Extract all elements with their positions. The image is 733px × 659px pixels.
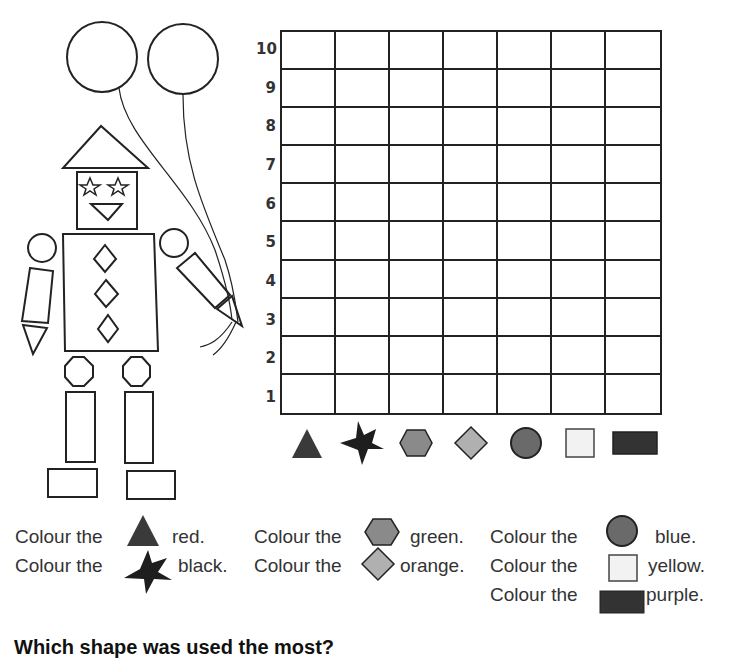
grid-cell[interactable] [390, 261, 444, 299]
arm-left-rectangle [22, 268, 53, 323]
grid-cell[interactable] [606, 70, 660, 108]
grid-cell[interactable] [552, 146, 606, 184]
grid-cell[interactable] [390, 337, 444, 375]
head-square [77, 172, 137, 229]
grid-cell[interactable] [444, 337, 498, 375]
y-tick-4: 4 [256, 272, 276, 290]
grid-cell[interactable] [552, 32, 606, 70]
instruction-prefix: Colour the [490, 584, 578, 606]
rectangle-icon [599, 590, 645, 614]
grid-cell[interactable] [390, 375, 444, 413]
body-diamond [94, 245, 116, 272]
grid-cell[interactable] [444, 261, 498, 299]
grid-cell[interactable] [336, 32, 390, 70]
body-diamond [95, 280, 118, 307]
grid-cell[interactable] [336, 146, 390, 184]
balloon-left [67, 22, 137, 92]
grid-cell[interactable] [498, 108, 552, 146]
grid-cell[interactable] [336, 337, 390, 375]
grid-cell[interactable] [444, 184, 498, 222]
instruction-color-word: green. [410, 526, 464, 548]
grid-cell[interactable] [606, 108, 660, 146]
grid-cell[interactable] [552, 299, 606, 337]
grid-cell[interactable] [498, 337, 552, 375]
grid-cell[interactable] [282, 261, 336, 299]
grid-cell[interactable] [390, 184, 444, 222]
grid-cell[interactable] [282, 70, 336, 108]
grid-cell[interactable] [282, 32, 336, 70]
grid-cell[interactable] [336, 184, 390, 222]
grid-cell[interactable] [390, 70, 444, 108]
y-tick-8: 8 [256, 117, 276, 135]
grid-cell[interactable] [390, 32, 444, 70]
y-tick-6: 6 [256, 195, 276, 213]
grid-cell[interactable] [336, 70, 390, 108]
grid-cell[interactable] [444, 146, 498, 184]
grid-cell[interactable] [498, 375, 552, 413]
grid-cell[interactable] [552, 184, 606, 222]
instruction-color-word: red. [172, 526, 205, 548]
grid-cell[interactable] [552, 261, 606, 299]
grid-cell[interactable] [282, 108, 336, 146]
hexagon-icon [398, 428, 434, 458]
grid-cell[interactable] [552, 222, 606, 260]
grid-cell[interactable] [444, 70, 498, 108]
grid-cell[interactable] [390, 299, 444, 337]
balloon-string [213, 322, 236, 355]
grid-cell[interactable] [606, 222, 660, 260]
grid-cell[interactable] [552, 70, 606, 108]
grid-cell[interactable] [444, 375, 498, 413]
question-text: Which shape was used the most? [14, 636, 334, 659]
grid-cell[interactable] [282, 337, 336, 375]
y-tick-3: 3 [256, 311, 276, 329]
y-tick-7: 7 [256, 156, 276, 174]
category-triangle [280, 418, 335, 468]
grid-cell[interactable] [498, 32, 552, 70]
leg-octagon-left [65, 357, 93, 386]
grid-cell[interactable] [498, 146, 552, 184]
body-diamond [98, 315, 118, 342]
grid-cell[interactable] [282, 299, 336, 337]
grid-cell[interactable] [552, 108, 606, 146]
grid-cell[interactable] [444, 32, 498, 70]
square-icon [607, 553, 639, 583]
grid-cell[interactable] [606, 32, 660, 70]
grid-cell[interactable] [336, 261, 390, 299]
mouth-triangle [91, 204, 122, 220]
grid-cell[interactable] [606, 146, 660, 184]
grid-cell[interactable] [606, 184, 660, 222]
grid-cell[interactable] [444, 299, 498, 337]
grid-cell[interactable] [498, 70, 552, 108]
grid-cell[interactable] [336, 222, 390, 260]
grid-cell[interactable] [498, 184, 552, 222]
grid-cell[interactable] [282, 222, 336, 260]
grid-cell[interactable] [498, 299, 552, 337]
category-star [335, 418, 390, 468]
grid-cell[interactable] [390, 222, 444, 260]
grid-cell[interactable] [336, 375, 390, 413]
grid-cell[interactable] [552, 375, 606, 413]
grid-cell[interactable] [498, 261, 552, 299]
grid-cell[interactable] [606, 299, 660, 337]
grid-cell[interactable] [552, 337, 606, 375]
y-tick-9: 9 [256, 79, 276, 97]
category-square [553, 418, 608, 468]
grid-cell[interactable] [444, 222, 498, 260]
diamond-icon [453, 425, 489, 461]
grid-cell[interactable] [606, 261, 660, 299]
instruction-color-word: blue. [655, 526, 696, 548]
grid-cell[interactable] [282, 375, 336, 413]
category-diamond [444, 418, 499, 468]
foot-right-rectangle [127, 471, 175, 499]
grid-cell[interactable] [444, 108, 498, 146]
grid-cell[interactable] [390, 108, 444, 146]
grid-cell[interactable] [282, 146, 336, 184]
grid-cell[interactable] [606, 337, 660, 375]
grid-cell[interactable] [336, 108, 390, 146]
grid-cell[interactable] [606, 375, 660, 413]
grid-cell[interactable] [498, 222, 552, 260]
robot-drawing [0, 0, 260, 510]
grid-cell[interactable] [390, 146, 444, 184]
grid-cell[interactable] [282, 184, 336, 222]
grid-cell[interactable] [336, 299, 390, 337]
